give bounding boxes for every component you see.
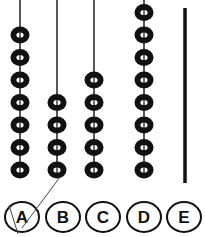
answer-options: A B C D E [5,202,201,232]
option-b[interactable]: B [46,202,80,232]
bead [11,72,30,89]
option-b-label: B [57,208,69,227]
option-e-label: E [178,208,189,227]
bead [135,162,154,179]
bead [135,94,154,111]
rod-a [11,0,30,179]
option-d[interactable]: D [127,202,161,232]
bead [48,117,67,134]
option-d-label: D [138,208,150,227]
bead [11,49,30,66]
bead [11,27,30,44]
option-a-label: A [16,208,28,227]
bead [11,162,30,179]
bead [85,162,104,179]
abacus-diagram: A B C D E [0,0,205,237]
option-e[interactable]: E [167,202,201,232]
bead [135,72,154,89]
bead [48,139,67,156]
bead [135,117,154,134]
bead [135,49,154,66]
bead [11,94,30,111]
bead [85,94,104,111]
option-c[interactable]: C [86,202,120,232]
bead [11,139,30,156]
rod-c [85,0,104,179]
bead [135,4,154,21]
bead [48,162,67,179]
rod-d [135,0,154,179]
option-c-label: C [97,208,109,227]
bead [11,117,30,134]
rods-layer [11,0,186,183]
bead [85,117,104,134]
bead [48,94,67,111]
rod-b [48,0,67,179]
bead [85,139,104,156]
bead [135,27,154,44]
bead [85,72,104,89]
bead [135,139,154,156]
